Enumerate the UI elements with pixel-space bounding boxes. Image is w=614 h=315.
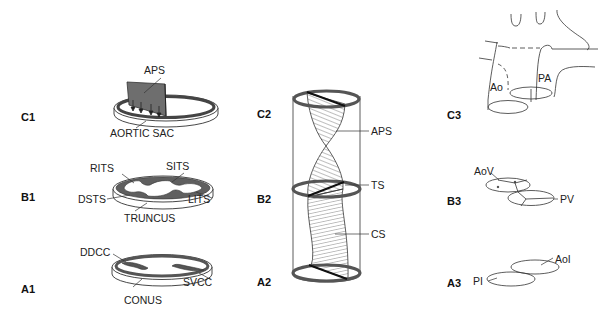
label-ts: TS (371, 179, 384, 191)
label-cs: CS (371, 228, 386, 240)
panel-label-c2: C2 (257, 108, 271, 120)
panel-label-b3: B3 (447, 195, 461, 207)
label-ao: Ao (490, 81, 503, 93)
panel-label-c1: C1 (21, 111, 35, 123)
label-conus: CONUS (124, 294, 162, 306)
spiral-septum (307, 93, 348, 279)
aorta-ring (488, 101, 528, 114)
aortic-valve (486, 178, 530, 192)
label-pv: PV (560, 193, 574, 205)
label-sits: SITS (166, 160, 189, 172)
label-pa: PA (538, 72, 551, 84)
panel-a1: A1 DDCC SVCC CONUS (21, 246, 213, 306)
panel-column-2: C2 B2 A2 (257, 91, 392, 288)
label-rits: RITS (90, 162, 114, 174)
panel-b3: B3 AoV PV (447, 165, 574, 207)
label-truncus: TRUNCUS (124, 212, 175, 224)
label-aortic-sac: AORTIC SAC (110, 127, 174, 139)
label-lits: LITS (188, 193, 210, 205)
label-aov: AoV (474, 165, 494, 177)
aortic-infundibulum-ring (511, 260, 559, 274)
label-dsts: DSTS (78, 193, 106, 205)
panel-label-b1: B1 (21, 191, 35, 203)
label-svcc: SVCC (183, 276, 213, 288)
panel-label-a2: A2 (257, 276, 271, 288)
panel-c1: C1 APS AORTIC SAC (21, 64, 218, 139)
great-arteries-outline (479, 10, 598, 110)
panel-a3: A3 AoI PI (447, 253, 571, 289)
pi-leader (488, 278, 497, 281)
pulmonary-valve (508, 191, 554, 207)
panel-label-c3: C3 (447, 109, 461, 121)
panel-label-a3: A3 (447, 277, 461, 289)
panel-label-b2: B2 (257, 193, 271, 205)
panel-c3: C3 Ao PA (447, 10, 598, 121)
label-aps-c2: APS (371, 125, 392, 137)
outflow-tract-septation-diagram: C1 APS AORTIC SAC B1 (0, 0, 614, 315)
panel-b1: B1 RITS SITS DSTS LITS TRUNCUS (21, 160, 213, 224)
label-pi: PI (473, 275, 483, 287)
panel-label-a1: A1 (21, 283, 35, 295)
label-aoi: AoI (555, 253, 571, 265)
label-aps-c1: APS (144, 64, 165, 76)
label-ddcc: DDCC (80, 246, 111, 258)
